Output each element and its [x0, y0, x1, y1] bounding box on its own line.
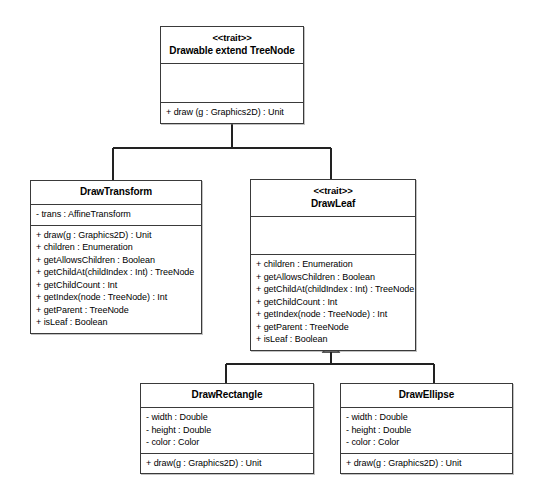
class-operation: + getChildAt(childIndex : Int) : TreeNod… [256, 283, 410, 296]
class-operation: + getChildCount : Int [256, 296, 410, 309]
class-header-drawellipse: DrawEllipse [341, 384, 512, 408]
class-operation: + getParent : TreeNode [36, 304, 196, 317]
class-operation: + draw(g : Graphics2D) : Unit [36, 229, 196, 242]
class-operation: + getChildAt(childIndex : Int) : TreeNod… [36, 266, 196, 279]
uml-class-drawtransform[interactable]: DrawTransform - trans : AffineTransform … [30, 180, 202, 334]
uml-class-drawrectangle[interactable]: DrawRectangle - width : Double - height … [140, 383, 314, 474]
class-attributes-drawable [161, 64, 303, 103]
class-name-drawellipse: DrawEllipse [345, 388, 508, 402]
class-operations-drawable: + draw (g : Graphics2D) : Unit [161, 103, 303, 123]
class-operation: + getIndex(node : TreeNode) : Int [36, 291, 196, 304]
class-stereotype-drawable: <<trait>> [165, 31, 299, 44]
class-operation: + isLeaf : Boolean [256, 333, 410, 346]
class-attribute: - trans : AffineTransform [36, 208, 196, 221]
class-attribute: - width : Double [346, 411, 507, 424]
class-name-drawable: Drawable extend TreeNode [165, 44, 299, 58]
class-header-drawrectangle: DrawRectangle [141, 384, 313, 408]
class-operation: + getAllowsChildren : Boolean [256, 271, 410, 284]
class-name-drawrectangle: DrawRectangle [145, 388, 309, 402]
uml-class-drawable[interactable]: <<trait>> Drawable extend TreeNode + dra… [160, 26, 304, 124]
class-operations-drawrectangle: + draw(g : Graphics2D) : Unit [141, 454, 313, 474]
class-operation: + isLeaf : Boolean [36, 316, 196, 329]
class-operation: + children : Enumeration [256, 258, 410, 271]
class-operation: + children : Enumeration [36, 241, 196, 254]
class-operation: + draw(g : Graphics2D) : Unit [346, 457, 507, 470]
class-operation: + getChildCount : Int [36, 279, 196, 292]
class-header-drawtransform: DrawTransform [31, 181, 201, 205]
class-stereotype-drawleaf: <<trait>> [255, 184, 411, 197]
class-name-drawleaf: DrawLeaf [255, 197, 411, 211]
class-operation: + draw(g : Graphics2D) : Unit [146, 457, 308, 470]
class-operation: + draw (g : Graphics2D) : Unit [166, 106, 298, 119]
class-operation: + getIndex(node : TreeNode) : Int [256, 308, 410, 321]
class-attribute: - color : Color [146, 436, 308, 449]
uml-class-drawleaf[interactable]: <<trait>> DrawLeaf + children : Enumerat… [250, 179, 416, 351]
class-operation: + getAllowsChildren : Boolean [36, 254, 196, 267]
class-operations-drawellipse: + draw(g : Graphics2D) : Unit [341, 454, 512, 474]
class-attributes-drawtransform: - trans : AffineTransform [31, 205, 201, 226]
class-attributes-drawleaf [251, 217, 415, 255]
uml-class-drawellipse[interactable]: DrawEllipse - width : Double - height : … [340, 383, 513, 474]
class-operations-drawleaf: + children : Enumeration + getAllowsChil… [251, 255, 415, 350]
class-header-drawable: <<trait>> Drawable extend TreeNode [161, 27, 303, 64]
class-attributes-drawellipse: - width : Double - height : Double - col… [341, 408, 512, 454]
uml-class-diagram: <<trait>> Drawable extend TreeNode + dra… [0, 0, 535, 488]
class-attribute: - height : Double [146, 424, 308, 437]
class-name-drawtransform: DrawTransform [35, 185, 197, 199]
class-operations-drawtransform: + draw(g : Graphics2D) : Unit + children… [31, 226, 201, 333]
class-attribute: - width : Double [146, 411, 308, 424]
class-header-drawleaf: <<trait>> DrawLeaf [251, 180, 415, 217]
class-attributes-drawrectangle: - width : Double - height : Double - col… [141, 408, 313, 454]
class-attribute: - color : Color [346, 436, 507, 449]
class-attribute: - height : Double [346, 424, 507, 437]
class-operation: + getParent : TreeNode [256, 321, 410, 334]
